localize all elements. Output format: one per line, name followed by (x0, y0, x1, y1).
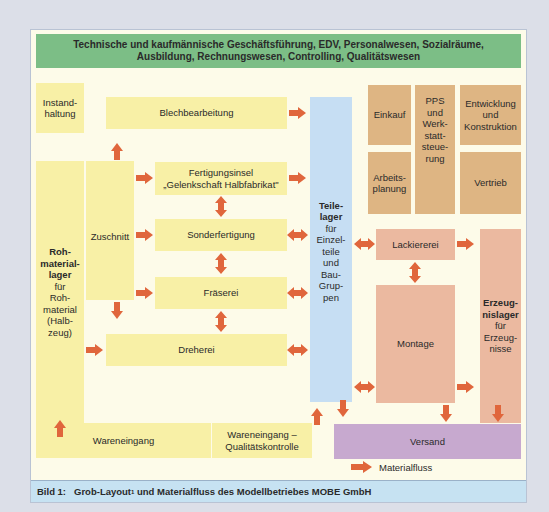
legend: Materialfluss (351, 461, 432, 473)
caption-text-b: und Materialfluss des Modellbetriebes MO… (134, 486, 371, 497)
legend-label: Materialfluss (379, 462, 432, 473)
caption-text-a: Grob-Layout (74, 486, 131, 497)
material-flow-arrows (0, 0, 549, 512)
figure-caption: Bild 1: Grob-Layout1 und Materialfluss d… (31, 480, 526, 502)
caption-prefix: Bild 1: (37, 486, 66, 497)
arrow-icon (351, 461, 373, 473)
